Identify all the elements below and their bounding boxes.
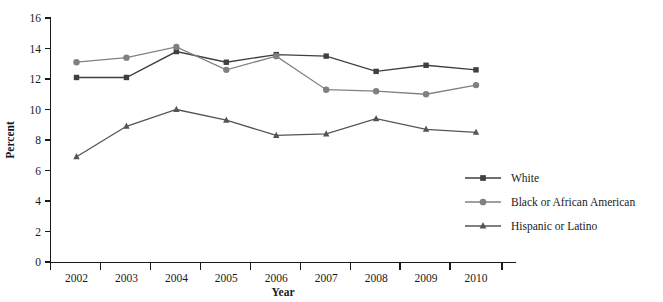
x-tick-label: 2007 (315, 272, 338, 284)
marker-square (473, 67, 478, 72)
y-axis: 0246810121416 Percent (4, 12, 51, 268)
x-tick-label: 2010 (465, 272, 488, 284)
y-tick-label: 8 (35, 134, 41, 146)
marker-square (74, 75, 79, 80)
marker-triangle (173, 106, 179, 112)
y-tick-label: 0 (35, 256, 41, 268)
marker-square (323, 53, 328, 58)
legend-label: White (511, 172, 539, 184)
y-tick-marks (45, 18, 51, 262)
y-tick-label: 2 (35, 226, 41, 238)
legend-label: Black or African American (511, 196, 635, 208)
marker-square (423, 63, 428, 68)
marker-circle (480, 199, 487, 206)
x-tick-marks (51, 263, 503, 271)
marker-circle (173, 44, 179, 50)
x-axis: 200220032004200520062007200820092010 Yea… (51, 263, 517, 299)
x-tick-label: 2004 (165, 272, 188, 284)
marker-circle (423, 91, 429, 97)
x-tick-label: 2009 (415, 272, 438, 284)
legend-item[interactable]: White (465, 172, 539, 184)
y-tick-label: 6 (35, 165, 41, 177)
legend-item[interactable]: Black or African American (465, 196, 635, 208)
y-tick-label: 14 (30, 43, 42, 55)
series (73, 44, 479, 98)
chart-container: 0246810121416 Percent 200220032004200520… (0, 0, 663, 302)
data-series-group (73, 44, 479, 159)
y-tick-label-group: 0246810121416 (30, 12, 42, 268)
x-tick-label: 2008 (365, 272, 388, 284)
x-tick-label: 2002 (65, 272, 88, 284)
y-tick-label: 16 (30, 12, 42, 24)
marker-circle (123, 54, 129, 60)
marker-square (480, 175, 486, 181)
line-chart: 0246810121416 Percent 200220032004200520… (0, 0, 663, 302)
x-tick-label: 2005 (215, 272, 238, 284)
chart-legend: WhiteBlack or African AmericanHispanic o… (465, 172, 635, 233)
legend-label: Hispanic or Latino (511, 220, 597, 233)
marker-circle (273, 53, 279, 59)
y-tick-label: 10 (30, 104, 42, 116)
series (73, 106, 479, 159)
marker-triangle (373, 115, 379, 121)
legend-item[interactable]: Hispanic or Latino (465, 220, 597, 233)
marker-square (373, 69, 378, 74)
marker-square (124, 75, 129, 80)
marker-circle (473, 82, 479, 88)
marker-square (224, 60, 229, 65)
y-tick-label: 12 (30, 73, 42, 85)
marker-circle (323, 86, 329, 92)
x-axis-title: Year (272, 286, 295, 298)
marker-circle (73, 59, 79, 65)
marker-circle (223, 67, 229, 73)
x-tick-label: 2003 (115, 272, 138, 284)
y-axis-title: Percent (4, 121, 16, 159)
y-tick-label: 4 (35, 195, 41, 207)
marker-circle (373, 88, 379, 94)
x-tick-label: 2006 (265, 272, 288, 284)
x-tick-label-group: 200220032004200520062007200820092010 (65, 272, 488, 284)
